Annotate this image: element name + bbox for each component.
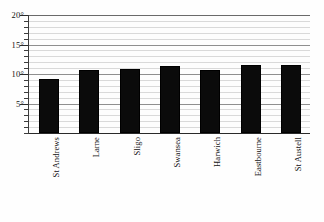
gridline xyxy=(29,39,310,40)
gridline xyxy=(29,56,310,57)
gridline xyxy=(29,33,310,34)
bar xyxy=(39,79,59,133)
gridline xyxy=(29,133,310,134)
x-axis-tick-label: Harwich xyxy=(213,137,222,167)
bar xyxy=(79,70,99,133)
bar xyxy=(160,66,180,133)
gridline xyxy=(29,62,310,63)
gridline xyxy=(29,15,310,16)
x-axis-labels: St AndrewsLarneSligoSwanseaHarwichEastbo… xyxy=(28,137,310,222)
gridline xyxy=(29,27,310,28)
gridline xyxy=(29,45,310,46)
bar xyxy=(200,70,220,133)
gridline xyxy=(29,50,310,51)
plot-area xyxy=(28,15,310,133)
x-axis-tick-label: St Andrews xyxy=(52,137,61,177)
gridline xyxy=(29,21,310,22)
bar xyxy=(281,65,301,133)
x-axis-tick-label: Larne xyxy=(92,137,101,157)
x-axis-tick-label: Eastbourne xyxy=(254,137,263,176)
x-axis-tick-label: St Austell xyxy=(294,137,303,171)
x-axis-tick-label: Sligo xyxy=(133,137,142,155)
bar xyxy=(120,69,140,133)
bar xyxy=(241,65,261,133)
x-axis-tick-label: Swansea xyxy=(173,137,182,167)
bar-chart: 20°15°10°5° St AndrewsLarneSligoSwanseaH… xyxy=(0,0,324,222)
